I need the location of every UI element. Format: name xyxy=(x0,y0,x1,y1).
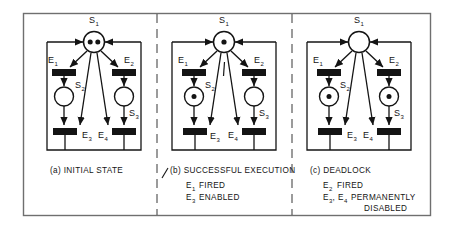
panel-a-label-e1-sub: 1 xyxy=(55,61,59,67)
panel-a-caption: (a) INITIAL STATE xyxy=(50,166,123,175)
panel-c-status-3-text: DISABLED xyxy=(364,204,407,213)
panel-a-place-s1-token-1 xyxy=(88,40,93,45)
panel-c-status-2-comma: , xyxy=(333,193,336,202)
panel-b-label-e3: E xyxy=(210,131,216,141)
panel-c-place-s3-token-1 xyxy=(387,94,392,99)
panel-b-label-s3-sub: 3 xyxy=(266,114,270,120)
panel-c-transition-e4 xyxy=(377,128,401,135)
panel-c-arc-s1-to-e2 xyxy=(366,51,383,67)
panel-a: S 1 E 1 S 2 E 3 E 2 S 3 E 4 xyxy=(47,15,141,175)
panel-a-arc-s1-to-e2 xyxy=(101,51,118,67)
panel-c-label-s1-sub: 1 xyxy=(361,21,365,27)
panel-b-transition-e3 xyxy=(183,128,207,135)
panel-b-arc-s1-to-e2 xyxy=(231,51,248,67)
panel-c-status-line-1: E 2 FIRED xyxy=(323,181,363,192)
panel-c-label-s3: S xyxy=(394,108,400,118)
panel-b-label-e3-sub: 3 xyxy=(217,137,221,143)
panel-b-status-1-text: FIRED xyxy=(199,181,225,190)
panel-c-place-s1 xyxy=(349,32,370,53)
panel-c-label-e3-sub: 3 xyxy=(354,136,358,142)
panel-a-place-s3 xyxy=(115,87,134,106)
panel-a-place-s1 xyxy=(84,32,105,53)
panel-c-caption: (c) DEADLOCK xyxy=(310,166,371,175)
panel-c-label-e2-sub: 2 xyxy=(396,61,400,67)
panel-c-label-e4-sub: 4 xyxy=(370,136,374,142)
panel-a-label-e1: E xyxy=(48,55,54,65)
panel-c-label-e4: E xyxy=(363,130,369,140)
panel-b-status-2-text: ENABLED xyxy=(199,193,240,202)
panel-b-place-s1-token-1 xyxy=(221,39,226,44)
panel-c-label-e2: E xyxy=(389,55,395,65)
panel-c-arc-s1-to-e4 xyxy=(362,53,373,125)
panel-b-transition-e2 xyxy=(242,69,266,76)
panel-a-label-s3: S xyxy=(129,108,135,118)
panel-b-label-e1: E xyxy=(178,55,184,65)
panel-a-arc-s1-to-e4 xyxy=(97,53,108,125)
panel-b-arc-center-stub xyxy=(224,62,225,76)
panel-c-transition-e3 xyxy=(318,128,342,135)
panel-b-status-line-1: E 1 FIRED xyxy=(186,181,225,192)
petri-net-figure: S 1 E 1 S 2 E 3 E 2 S 3 E 4 xyxy=(0,0,452,234)
panel-b-label-s2: S xyxy=(205,80,211,90)
panel-b-status-1-sub: 1 xyxy=(192,186,196,192)
panel-b-caption-leader xyxy=(162,168,168,178)
panel-a-label-e3-sub: 3 xyxy=(89,136,93,142)
panel-c-status-line-2: E 3 , E 4 PERMANENTLY xyxy=(323,193,416,204)
panel-b-label-s1: S xyxy=(219,15,225,25)
panel-b-transition-e4 xyxy=(242,128,266,135)
panel-c-place-s2-token-1 xyxy=(327,94,332,99)
panel-a-label-e4: E xyxy=(98,130,104,140)
panel-b-label-s1-sub: 1 xyxy=(226,21,230,27)
panel-c-status-2-sub2: 4 xyxy=(344,198,348,204)
panel-a-label-s3-sub: 3 xyxy=(136,114,140,120)
panel-a-place-s2 xyxy=(55,87,74,106)
panel-b-transition-e1 xyxy=(182,69,206,76)
panel-b-label-e1-sub: 1 xyxy=(185,61,189,67)
panel-b-label-s3: S xyxy=(259,108,265,118)
panel-a-transition-e2 xyxy=(112,69,136,76)
panel-a-label-e3: E xyxy=(82,130,88,140)
panel-b-label-e2: E xyxy=(254,55,260,65)
panel-c-label-e1-sub: 1 xyxy=(320,61,324,67)
panel-a-label-e4-sub: 4 xyxy=(105,136,109,142)
panel-c-status-2-text: PERMANENTLY xyxy=(351,193,416,202)
panel-c-arc-s1-to-e1 xyxy=(335,51,352,67)
panel-c-transition-e2 xyxy=(377,69,401,76)
panel-a-label-e2: E xyxy=(124,55,130,65)
panel-c-label-s1: S xyxy=(354,15,360,25)
panel-b-label-e2-sub: 2 xyxy=(261,61,265,67)
panel-a-label-s1: S xyxy=(89,15,95,25)
panel-b-arc-s1-to-e4 xyxy=(227,53,238,125)
panel-b-label-e4: E xyxy=(228,130,234,140)
panel-b-status-2-sub: 3 xyxy=(192,198,196,204)
panel-b: S 1 E 1 S 2 E 3 E 2 S 3 E 4 (b) SUC xyxy=(162,15,295,204)
panel-b-status-line-2: E 3 ENABLED xyxy=(186,193,240,204)
panel-b-caption: (b) SUCCESSFUL EXECUTION xyxy=(170,166,295,175)
panel-b-arc-s1-to-e1 xyxy=(200,51,217,67)
panel-b-label-e4-sub: 4 xyxy=(235,136,239,142)
panel-c: S 1 E 1 S 2 E 3 E 2 S 3 E 4 (c) DEADLOCK xyxy=(307,15,416,213)
panel-c-label-e3: E xyxy=(347,130,353,140)
panel-c-status-1-sub: 2 xyxy=(329,186,333,192)
panel-c-label-s3-sub: 3 xyxy=(401,114,405,120)
panel-a-label-s2: S xyxy=(75,80,81,90)
panel-a-transition-e1 xyxy=(52,69,76,76)
panel-c-status-1-text: FIRED xyxy=(337,181,363,190)
panel-c-transition-e1 xyxy=(317,69,341,76)
panel-b-place-s2-token-1 xyxy=(192,94,197,99)
panel-b-place-s3 xyxy=(245,87,264,106)
panel-a-transition-e4 xyxy=(112,128,136,135)
figure-root: S 1 E 1 S 2 E 3 E 2 S 3 E 4 xyxy=(0,0,452,234)
panel-a-label-s1-sub: 1 xyxy=(96,21,100,27)
panel-c-label-e1: E xyxy=(313,55,319,65)
panel-a-place-s1-token-2 xyxy=(95,40,100,45)
panel-a-arc-s1-to-e1 xyxy=(70,51,87,67)
panel-a-label-e2-sub: 2 xyxy=(131,61,135,67)
panel-c-label-s2: S xyxy=(340,80,346,90)
panel-a-transition-e3 xyxy=(53,128,77,135)
